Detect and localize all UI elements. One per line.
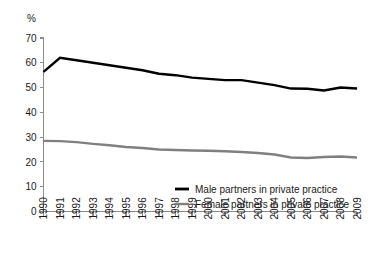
legend-label-male: Male partners in private practice (195, 184, 338, 195)
y-tick-label: 60 (25, 57, 37, 68)
y-tick-label: 50 (25, 82, 37, 93)
y-tick-label: 10 (25, 181, 37, 192)
x-tick-label: 1994 (104, 197, 115, 220)
x-tick-label: 1990 (38, 197, 49, 220)
x-tick-label: 1997 (154, 197, 165, 220)
x-tick-label: 1996 (137, 197, 148, 220)
x-tick-label: 1998 (170, 197, 181, 220)
y-tick-label: 40 (25, 107, 37, 118)
chart-background (0, 0, 372, 267)
x-tick-label: 1992 (71, 197, 82, 220)
y-tick-label: 0 (31, 206, 37, 217)
y-tick-label: 20 (25, 157, 37, 168)
y-axis-unit-label: % (27, 13, 36, 24)
chart-canvas: % 010203040506070 1990199119921993199419… (0, 0, 372, 267)
x-tick-label: 1993 (88, 197, 99, 220)
legend-label-female: Female partners in private practice (195, 199, 349, 210)
x-tick-label: 1991 (55, 197, 66, 220)
x-tick-label: 2009 (352, 197, 363, 220)
y-tick-label: 30 (25, 132, 37, 143)
x-tick-label: 1995 (121, 197, 132, 220)
y-tick-label: 70 (25, 33, 37, 44)
line-chart: % 010203040506070 1990199119921993199419… (0, 0, 372, 267)
